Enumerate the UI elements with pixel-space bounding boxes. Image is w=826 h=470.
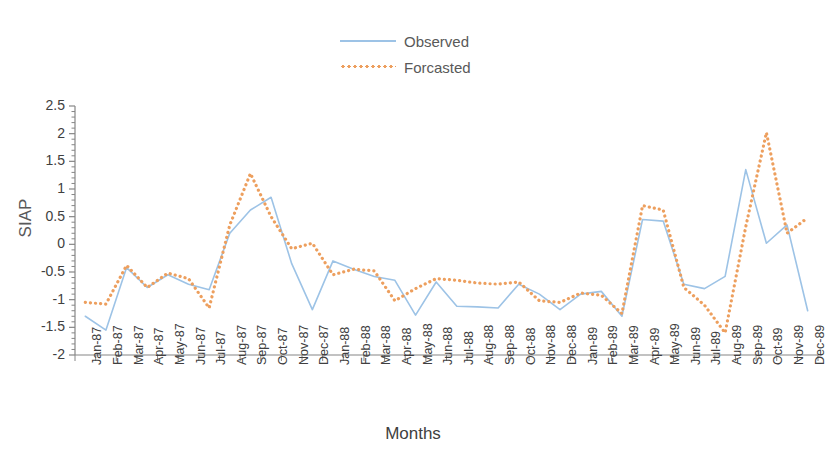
chart-container: Observed Forcasted 2.521.510.50-0.5-1-1.… [0,0,826,470]
x-axis-tick-label: May-89 [668,323,682,365]
x-axis-tick-label: Oct-87 [276,327,290,365]
x-axis-tick-label: Aug-88 [482,325,496,365]
data-series-layer [85,133,807,333]
x-axis-tick-label: Oct-89 [771,327,785,365]
y-axis-title: SIAP [16,178,36,258]
y-axis-tick-label: -2 [25,346,65,362]
x-axis-tick-label: May-87 [173,323,187,365]
y-axis-tick-label: 2.5 [25,97,65,113]
y-axis-tick-label: 1.5 [25,152,65,168]
x-axis-tick-label: Jan-87 [90,327,104,365]
x-axis-tick-label: Dec-89 [813,325,826,365]
x-axis-title: Months [0,424,826,444]
x-axis-tick-label: Feb-89 [606,325,620,365]
x-axis-tick-label: Oct-88 [524,327,538,365]
x-axis-tick-label: Jul-88 [462,331,476,365]
y-axis-tick-label: 2 [25,125,65,141]
x-axis-tick-label: Apr-88 [400,327,414,365]
y-axis-tick-label: -1 [25,291,65,307]
x-axis-tick-label: May-88 [421,323,435,365]
x-axis-tick-label: Jan-88 [338,327,352,365]
x-axis-tick-label: Sep-87 [255,325,269,365]
series-line-observed [85,170,807,330]
x-axis-tick-label: Apr-87 [152,327,166,365]
x-axis-tick-label: Jun-89 [689,327,703,365]
series-line-forcasted [85,133,807,333]
y-axis-tick-label: -1.5 [25,318,65,334]
x-axis-tick-label: Mar-88 [379,325,393,365]
x-axis-tick-label: Nov-89 [792,325,806,365]
x-axis-tick-label: Mar-89 [627,325,641,365]
x-axis-tick-label: Jul-87 [214,331,228,365]
x-axis-tick-label: Dec-87 [317,325,331,365]
x-axis-tick-label: Mar-87 [132,325,146,365]
x-axis-tick-label: Nov-88 [544,325,558,365]
x-axis-tick-label: Feb-87 [111,325,125,365]
x-axis-tick-label: Nov-87 [297,325,311,365]
x-axis-tick-label: Feb-88 [359,325,373,365]
x-axis-tick-label: Aug-89 [730,325,744,365]
y-axis-tick-label: -0.5 [25,263,65,279]
x-axis-tick-label: Jan-89 [586,327,600,365]
x-axis-tick-label: Sep-89 [751,325,765,365]
x-axis-tick-label: Dec-88 [565,325,579,365]
x-axis-tick-label: Jun-87 [194,327,208,365]
plot-area [0,0,826,470]
x-axis-tick-label: Jul-89 [709,331,723,365]
x-axis-tick-label: Apr-89 [648,327,662,365]
x-axis-tick-label: Aug-87 [235,325,249,365]
x-axis-tick-label: Jun-88 [441,327,455,365]
x-axis-tick-label: Sep-88 [503,325,517,365]
